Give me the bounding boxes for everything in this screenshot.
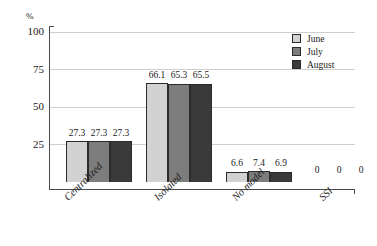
legend-label: June — [307, 34, 324, 44]
legend-item-june[interactable]: June — [292, 33, 334, 44]
y-tick-label-25: 25 — [8, 138, 44, 150]
bar-centralized-august[interactable] — [110, 141, 132, 182]
bar-no-model-august[interactable] — [270, 172, 292, 182]
bar-isolated-july[interactable] — [168, 84, 190, 182]
y-tick-label-100: 100 — [8, 25, 44, 37]
y-tick-label-50: 50 — [8, 100, 44, 112]
x-axis-line — [49, 189, 355, 190]
x-axis-right-cap — [354, 189, 355, 194]
x-category-label-ssi: SSI — [317, 185, 335, 203]
bar-isolated-august[interactable] — [190, 84, 212, 182]
legend-swatch-icon — [292, 47, 301, 56]
legend-item-july[interactable]: July — [292, 46, 334, 57]
y-tick-label-75: 75 — [8, 63, 44, 75]
bars-no-model — [226, 32, 292, 182]
legend-swatch-icon — [292, 34, 301, 43]
y-axis-unit-label: % — [26, 11, 34, 21]
legend-label: August — [307, 60, 334, 70]
bar-isolated-june[interactable] — [146, 83, 168, 182]
bar-chart: % 100 75 50 25 27.3 27.3 27.3 — [0, 0, 377, 246]
legend-swatch-icon — [292, 60, 301, 69]
bars-isolated — [146, 32, 212, 182]
y-axis-top-cap — [49, 26, 54, 27]
legend: June July August — [292, 33, 334, 72]
legend-label: July — [307, 47, 323, 57]
bars-centralized — [66, 32, 132, 182]
legend-item-august[interactable]: August — [292, 59, 334, 70]
